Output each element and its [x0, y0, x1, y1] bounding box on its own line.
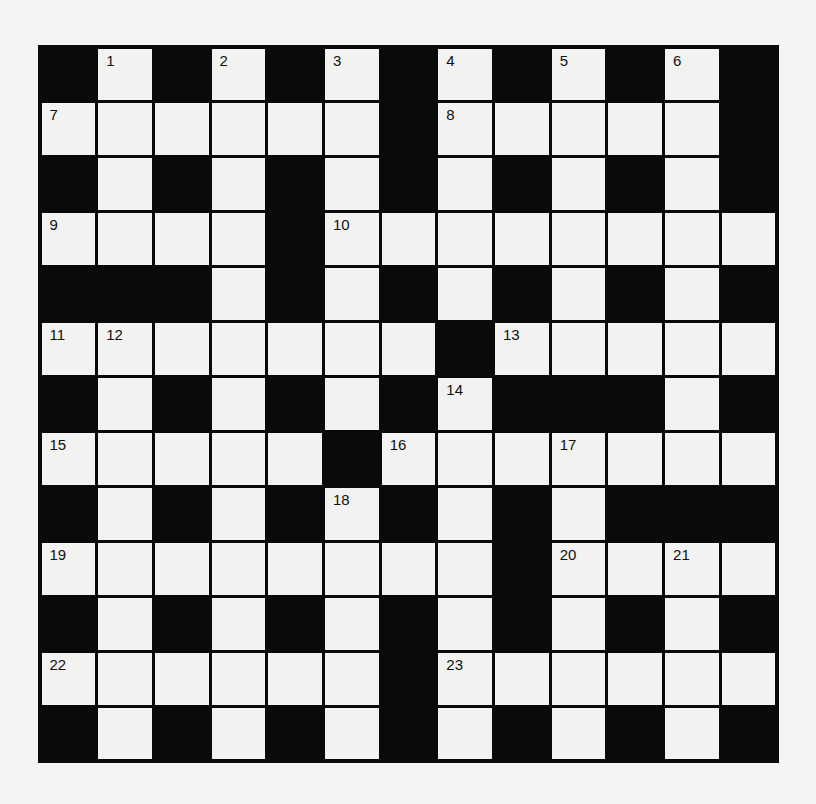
crossword-cell[interactable] [722, 433, 776, 485]
crossword-cell[interactable] [98, 433, 152, 485]
crossword-cell[interactable]: 19 [42, 543, 96, 595]
crossword-cell[interactable]: 4 [438, 49, 492, 101]
crossword-cell[interactable] [212, 213, 266, 265]
crossword-cell[interactable] [552, 213, 606, 265]
crossword-cell[interactable] [438, 598, 492, 650]
crossword-cell[interactable] [552, 653, 606, 705]
crossword-cell[interactable] [495, 103, 549, 155]
crossword-cell[interactable] [98, 378, 152, 430]
crossword-cell[interactable] [552, 323, 606, 375]
crossword-cell[interactable] [212, 543, 266, 595]
crossword-cell[interactable] [608, 653, 662, 705]
crossword-cell[interactable] [552, 268, 606, 320]
crossword-cell[interactable]: 14 [438, 378, 492, 430]
crossword-cell[interactable]: 16 [382, 433, 436, 485]
crossword-cell[interactable] [665, 323, 719, 375]
crossword-cell[interactable] [665, 598, 719, 650]
crossword-cell[interactable]: 23 [438, 653, 492, 705]
crossword-cell[interactable] [212, 598, 266, 650]
crossword-cell[interactable] [212, 268, 266, 320]
crossword-cell[interactable] [212, 323, 266, 375]
crossword-cell[interactable] [212, 378, 266, 430]
crossword-cell[interactable] [438, 543, 492, 595]
crossword-cell[interactable] [325, 598, 379, 650]
crossword-cell[interactable] [438, 213, 492, 265]
crossword-cell[interactable] [722, 213, 776, 265]
crossword-cell[interactable] [155, 213, 209, 265]
crossword-cell[interactable]: 20 [552, 543, 606, 595]
crossword-cell[interactable] [155, 543, 209, 595]
crossword-cell[interactable]: 7 [42, 103, 96, 155]
crossword-cell[interactable] [382, 323, 436, 375]
crossword-cell[interactable]: 13 [495, 323, 549, 375]
crossword-cell[interactable] [212, 158, 266, 210]
crossword-cell[interactable] [552, 158, 606, 210]
crossword-cell[interactable]: 1 [98, 49, 152, 101]
crossword-cell[interactable] [438, 488, 492, 540]
crossword-cell[interactable] [552, 708, 606, 760]
crossword-cell[interactable]: 15 [42, 433, 96, 485]
crossword-cell[interactable] [722, 323, 776, 375]
crossword-cell[interactable] [665, 708, 719, 760]
crossword-cell[interactable] [495, 433, 549, 485]
crossword-cell[interactable] [438, 158, 492, 210]
crossword-cell[interactable] [155, 653, 209, 705]
crossword-cell[interactable] [665, 433, 719, 485]
crossword-cell[interactable]: 18 [325, 488, 379, 540]
crossword-cell[interactable] [608, 433, 662, 485]
crossword-cell[interactable] [98, 708, 152, 760]
crossword-cell[interactable] [382, 213, 436, 265]
crossword-cell[interactable]: 17 [552, 433, 606, 485]
crossword-cell[interactable] [325, 543, 379, 595]
crossword-cell[interactable] [212, 653, 266, 705]
crossword-cell[interactable] [155, 103, 209, 155]
crossword-cell[interactable]: 9 [42, 213, 96, 265]
crossword-cell[interactable] [382, 543, 436, 595]
crossword-cell[interactable] [552, 488, 606, 540]
crossword-cell[interactable] [608, 323, 662, 375]
crossword-cell[interactable] [438, 433, 492, 485]
crossword-cell[interactable] [268, 433, 322, 485]
crossword-cell[interactable] [665, 268, 719, 320]
crossword-cell[interactable] [212, 433, 266, 485]
crossword-cell[interactable] [268, 653, 322, 705]
crossword-cell[interactable] [98, 213, 152, 265]
crossword-cell[interactable] [268, 103, 322, 155]
crossword-cell[interactable]: 3 [325, 49, 379, 101]
crossword-cell[interactable] [608, 103, 662, 155]
crossword-cell[interactable]: 5 [552, 49, 606, 101]
crossword-cell[interactable] [98, 488, 152, 540]
crossword-cell[interactable] [325, 158, 379, 210]
crossword-cell[interactable] [325, 323, 379, 375]
crossword-cell[interactable]: 2 [212, 49, 266, 101]
crossword-cell[interactable] [552, 598, 606, 650]
crossword-cell[interactable] [608, 213, 662, 265]
crossword-cell[interactable] [665, 103, 719, 155]
crossword-cell[interactable]: 10 [325, 213, 379, 265]
crossword-cell[interactable] [325, 103, 379, 155]
crossword-cell[interactable] [212, 103, 266, 155]
crossword-cell[interactable] [438, 268, 492, 320]
crossword-cell[interactable] [212, 488, 266, 540]
crossword-cell[interactable] [98, 598, 152, 650]
crossword-cell[interactable] [665, 158, 719, 210]
crossword-cell[interactable] [155, 323, 209, 375]
crossword-cell[interactable] [665, 213, 719, 265]
crossword-cell[interactable] [325, 708, 379, 760]
crossword-cell[interactable] [495, 213, 549, 265]
crossword-cell[interactable]: 8 [438, 103, 492, 155]
crossword-cell[interactable]: 21 [665, 543, 719, 595]
crossword-cell[interactable] [325, 653, 379, 705]
crossword-cell[interactable]: 6 [665, 49, 719, 101]
crossword-cell[interactable] [268, 543, 322, 595]
crossword-cell[interactable] [212, 708, 266, 760]
crossword-cell[interactable] [98, 653, 152, 705]
crossword-cell[interactable] [665, 653, 719, 705]
crossword-cell[interactable] [98, 103, 152, 155]
crossword-cell[interactable] [552, 103, 606, 155]
crossword-cell[interactable] [665, 378, 719, 430]
crossword-cell[interactable] [98, 158, 152, 210]
crossword-cell[interactable] [495, 653, 549, 705]
crossword-cell[interactable] [268, 323, 322, 375]
crossword-cell[interactable] [722, 543, 776, 595]
